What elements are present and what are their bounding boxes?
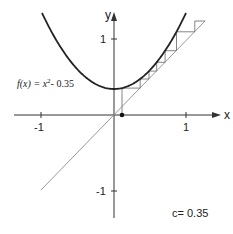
x-tick-label-neg1: -1 (34, 122, 44, 133)
function-label: f(x) = x2- 0.35 (17, 78, 74, 89)
y-axis-label: y (105, 9, 111, 21)
plot-canvas (0, 0, 233, 234)
cobweb-path (122, 21, 205, 115)
cobweb-diagram: y x -1 1 1 -1 f(x) = x2- 0.35 c= 0.35 (0, 0, 233, 234)
x-axis-label: x (224, 109, 230, 121)
diagonal-line (41, 21, 205, 190)
y-axis-arrow-icon (111, 12, 117, 21)
x-axis-arrow-icon (212, 112, 221, 118)
start-point-dot (120, 113, 125, 118)
function-label-constant: - 0.35 (51, 78, 74, 89)
y-tick-label-1: 1 (100, 34, 106, 45)
function-label-base: f(x) = x (17, 78, 47, 89)
x-tick-label-1: 1 (183, 122, 189, 133)
parameter-label: c= 0.35 (172, 208, 208, 219)
y-tick-label-neg1: -1 (96, 186, 106, 197)
